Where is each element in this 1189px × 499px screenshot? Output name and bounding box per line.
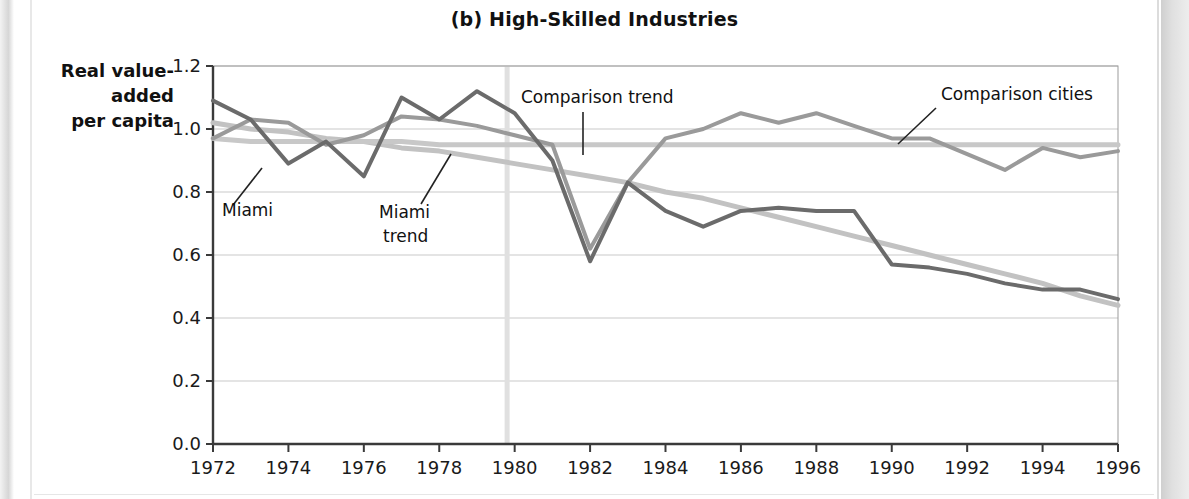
x-tick-label: 1994 (1020, 457, 1066, 478)
y-tick-label: 1.2 (172, 55, 201, 76)
annotation-comparison-trend-label: Comparison trend (521, 87, 674, 107)
y-tick-label: 1.0 (172, 118, 201, 139)
x-tick-label: 1972 (190, 457, 236, 478)
annotation-miami-trend: Miami trend (379, 154, 451, 246)
x-tick-label: 1980 (492, 457, 538, 478)
annotation-miami-label: Miami (222, 200, 273, 220)
y-tick-label: 0.2 (172, 370, 201, 391)
figure-page: (b) High-Skilled Industries Real value- … (0, 0, 1189, 499)
x-tick-label: 1988 (793, 457, 839, 478)
annotation-miami-trend-leader (421, 154, 451, 204)
x-tick-label: 1974 (266, 457, 312, 478)
y-axis-ticks: 0.00.20.40.60.81.01.2 (172, 55, 213, 454)
plot-area: 0.00.20.40.60.81.01.2 197219741976197819… (0, 0, 1189, 499)
x-tick-label: 1984 (643, 457, 689, 478)
series-line-comparison-cities (213, 113, 1118, 249)
x-tick-label: 1986 (718, 457, 764, 478)
y-tick-label: 0.8 (172, 181, 201, 202)
y-tick-label: 0.4 (172, 307, 201, 328)
x-tick-label: 1996 (1095, 457, 1141, 478)
y-tick-label: 0.0 (172, 433, 201, 454)
annotation-miami: Miami (222, 168, 273, 220)
y-tick-label: 0.6 (172, 244, 201, 265)
x-tick-label: 1990 (869, 457, 915, 478)
annotation-miami-trend-label-2: trend (383, 226, 428, 246)
annotation-comparison-cities: Comparison cities (898, 84, 1093, 144)
annotation-comparison-cities-label: Comparison cities (941, 84, 1093, 104)
x-tick-label: 1978 (416, 457, 462, 478)
gridlines (213, 66, 1118, 381)
annotation-miami-trend-label-1: Miami (379, 202, 430, 222)
x-tick-label: 1982 (567, 457, 613, 478)
x-tick-label: 1976 (341, 457, 387, 478)
x-axis-ticks: 1972197419761978198019821984198619881990… (190, 444, 1141, 478)
data-series (213, 91, 1118, 305)
line-chart: 0.00.20.40.60.81.01.2 197219741976197819… (0, 0, 1189, 499)
x-tick-label: 1992 (944, 457, 990, 478)
